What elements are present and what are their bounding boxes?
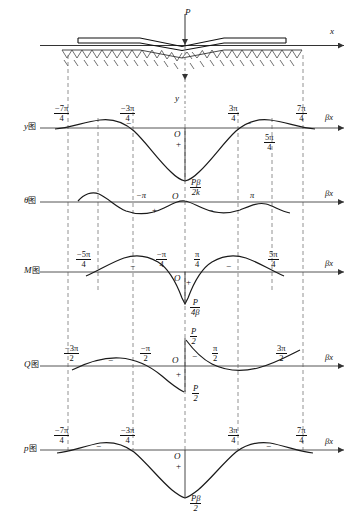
sign-plus-p: + <box>176 462 181 471</box>
peak-label-M: P4β <box>190 298 200 317</box>
origin-label-p: O <box>174 452 181 461</box>
sign-plus-theta: + <box>152 206 157 215</box>
beam-foundation-diagram <box>40 14 344 108</box>
row-label-p: p图 <box>24 444 37 453</box>
tick-Q-minus3pi-2: −3π2 <box>64 344 79 363</box>
tick-M-minus-pi-4: −π4 <box>156 250 167 269</box>
row-label-theta: θ图 <box>24 196 36 205</box>
tick-Q-3pi-2: 3π2 <box>276 344 287 363</box>
tick-y-3pi-4: 3π4 <box>228 104 239 123</box>
tick-y-minus7pi-4: −7π4 <box>54 104 69 123</box>
peak-label-p: Pβ2 <box>190 494 201 512</box>
sign-minus-Q-left: − <box>108 356 113 365</box>
theta-curve <box>78 193 290 214</box>
row-label-Q: Q图 <box>24 360 39 369</box>
tick-theta-minus-pi: −π <box>136 190 146 200</box>
tick-p-minus7pi-4: −7π4 <box>54 426 69 445</box>
sign-minus-y-left: − <box>126 119 131 128</box>
tick-theta-pi: π <box>250 190 254 200</box>
sign-minus-p-right: − <box>266 442 271 451</box>
foundation-hatch <box>62 50 302 69</box>
sign-minus-M-right: − <box>226 262 231 271</box>
peak-label-Q-lower: P2 <box>192 384 199 403</box>
y-diagram <box>40 120 344 181</box>
sign-plus-Q: + <box>176 370 181 379</box>
load-label-P: P <box>185 8 191 17</box>
tick-M-pi-4: π4 <box>194 250 200 269</box>
origin-label-theta: O <box>172 192 179 201</box>
row-label-y: y图 <box>24 122 36 131</box>
peak-label-Q-upper: P2 <box>190 327 197 346</box>
origin-label-y: O <box>174 130 181 139</box>
tick-y-5pi-4: 5π4 <box>264 133 275 152</box>
sign-plus-y: + <box>176 140 181 149</box>
p-diagram <box>40 443 344 498</box>
tick-Q-pi-2: π2 <box>212 344 218 363</box>
y-axis-label: y <box>175 94 179 103</box>
origin-label-Q: O <box>172 356 179 365</box>
sign-minus-M-left: − <box>130 262 135 271</box>
x-axis-label: x <box>330 27 334 36</box>
axis-label-betax-M: βx <box>325 258 333 268</box>
Q-curve-left <box>72 358 184 392</box>
tick-p-3pi-4: 3π4 <box>228 426 239 445</box>
row-label-M: M图 <box>24 266 40 275</box>
axis-label-betax-p: βx <box>325 436 333 446</box>
tick-Q-minus-pi-2: −π2 <box>140 344 151 363</box>
origin-label-M: O <box>174 274 181 283</box>
sign-plus-M: + <box>186 278 191 287</box>
tick-M-minus5pi-4: −5π4 <box>76 250 91 269</box>
sign-minus-theta: − <box>208 206 213 215</box>
tick-y-7pi-4: 7π4 <box>296 104 307 123</box>
tick-M-5pi-4: 5π4 <box>268 250 279 269</box>
axis-label-betax-y: βx <box>325 112 333 122</box>
tick-p-minus3pi-4: −3π4 <box>120 426 135 445</box>
sign-minus-p-left: − <box>96 442 101 451</box>
peak-label-y: Pβ2k <box>190 178 201 197</box>
sign-minus-y-right: − <box>246 119 251 128</box>
y-axis-arrowhead <box>182 74 188 80</box>
sign-minus-Q-right: − <box>192 352 197 361</box>
axis-label-betax-theta: βx <box>325 188 333 198</box>
axis-label-betax-Q: βx <box>325 352 333 362</box>
tick-p-7pi-4: 7π4 <box>296 426 307 445</box>
